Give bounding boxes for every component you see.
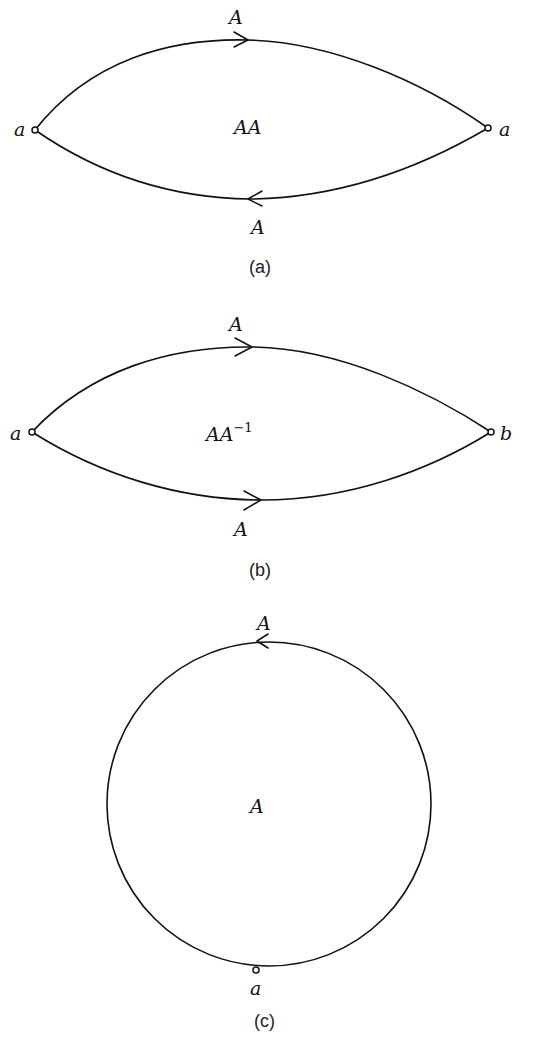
edge-label: A xyxy=(255,612,271,634)
region-label-exponent: −1 xyxy=(233,420,252,435)
figure-c: A A a (c) xyxy=(107,612,431,1031)
left-vertex xyxy=(29,429,35,435)
top-edge-label: A xyxy=(227,313,243,335)
caption-a: (a) xyxy=(249,257,271,277)
caption-c: (c) xyxy=(254,1011,275,1031)
loop-edge xyxy=(107,642,431,966)
bottom-edge xyxy=(35,128,488,199)
right-vertex-label: b xyxy=(500,422,512,444)
caption-b: (b) xyxy=(249,560,271,580)
right-vertex xyxy=(485,125,491,131)
bottom-edge xyxy=(32,432,491,500)
region-label: AA−1 xyxy=(204,420,253,445)
base-vertex xyxy=(253,967,259,973)
region-label: A xyxy=(248,795,264,817)
region-label: AA xyxy=(232,116,261,138)
top-edge-label: A xyxy=(227,6,243,28)
top-edge xyxy=(32,347,491,432)
left-vertex-label: a xyxy=(10,422,21,444)
figure-b: A A a b AA−1 (b) xyxy=(10,313,512,580)
top-edge xyxy=(35,40,488,130)
right-vertex-label: a xyxy=(499,118,510,140)
bottom-edge-label: A xyxy=(232,518,248,540)
left-vertex xyxy=(32,127,38,133)
region-label-base: AA xyxy=(204,423,233,445)
left-vertex-label: a xyxy=(14,118,25,140)
figure-canvas: A A a a AA (a) A A a b AA−1 (b) A A a (c… xyxy=(0,0,540,1048)
figure-a: A A a a AA (a) xyxy=(14,6,510,277)
vertex-label: a xyxy=(250,977,261,999)
arrow-left-icon xyxy=(257,634,268,648)
bottom-edge-label: A xyxy=(249,216,265,238)
right-vertex xyxy=(488,429,494,435)
